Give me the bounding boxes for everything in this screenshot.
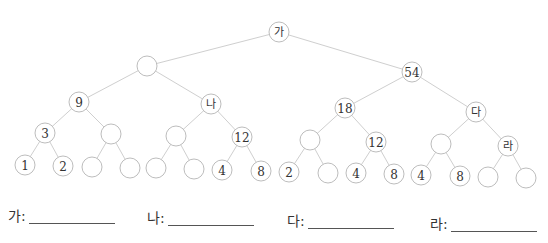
node-label: 12 <box>368 136 383 150</box>
node-label: 나 <box>206 98 216 111</box>
tree-node: 8 <box>450 166 470 186</box>
answer-da: 다: <box>287 213 394 229</box>
tree-node: 12 <box>366 132 386 152</box>
node-circle <box>120 158 140 178</box>
tree-node: 1 <box>15 155 35 175</box>
node-label: 12 <box>234 131 249 145</box>
node-circle <box>184 159 204 179</box>
node-label: 8 <box>390 168 398 182</box>
tree-node-empty <box>431 134 451 154</box>
tree-node: 8 <box>251 161 271 181</box>
answer-label-ra: 라: <box>430 216 448 232</box>
node-label: 4 <box>218 164 226 178</box>
tree-edge <box>279 32 412 72</box>
answer-blank-ga[interactable] <box>29 211 115 224</box>
tree-node: 4 <box>411 165 431 185</box>
node-label: 1 <box>21 159 29 173</box>
tree-node-empty <box>146 158 166 178</box>
answer-ra: 라: <box>430 216 537 232</box>
tree-node-empty <box>318 163 338 183</box>
node-label: 4 <box>352 167 360 181</box>
node-circle <box>300 130 320 150</box>
tree-node: 18 <box>335 98 355 118</box>
node-circle <box>166 126 186 146</box>
tree-node-empty <box>478 167 498 187</box>
tree-edge <box>79 66 147 102</box>
tree-node-empty <box>137 56 157 76</box>
node-circle <box>318 163 338 183</box>
tree-node: 4 <box>346 163 366 183</box>
answer-label-na: 나: <box>147 210 165 226</box>
tree-node: 가 <box>269 22 289 42</box>
answer-label-da: 다: <box>287 213 305 229</box>
tree-node: 2 <box>279 162 299 182</box>
node-circle <box>516 168 536 188</box>
tree-edge <box>147 66 211 104</box>
node-label: 54 <box>404 66 420 80</box>
answer-blank-da[interactable] <box>308 216 394 229</box>
tree-node: 12 <box>232 127 252 147</box>
tree-node: 2 <box>53 156 73 176</box>
tree-node: 다 <box>466 102 486 122</box>
node-label: 18 <box>337 102 352 116</box>
node-label: 8 <box>456 170 464 184</box>
tree-node-empty <box>184 159 204 179</box>
node-label: 4 <box>417 169 425 183</box>
node-circle <box>101 124 121 144</box>
node-label: 다 <box>471 106 481 119</box>
node-label: 2 <box>59 160 67 174</box>
node-circle <box>431 134 451 154</box>
tree-node-empty <box>120 158 140 178</box>
answer-ga: 가: <box>8 208 115 224</box>
tree-node: 8 <box>384 164 404 184</box>
tree-edge <box>147 32 279 66</box>
tree-node: 3 <box>35 123 55 143</box>
binary-tree-diagram: 가549나18다31212라124824848 <box>0 0 548 200</box>
node-label: 가 <box>274 26 284 39</box>
answer-na: 나: <box>147 210 254 226</box>
node-circle <box>82 157 102 177</box>
node-label: 9 <box>75 96 83 110</box>
node-label: 3 <box>41 127 49 141</box>
tree-edge <box>412 72 476 112</box>
tree-node: 나 <box>201 94 221 114</box>
answer-label-ga: 가: <box>8 208 26 224</box>
tree-node-empty <box>101 124 121 144</box>
node-label: 라 <box>503 140 513 153</box>
tree-edge <box>345 72 412 108</box>
tree-edges <box>25 32 526 178</box>
tree-node-empty <box>166 126 186 146</box>
tree-nodes: 가549나18다31212라124824848 <box>15 22 536 188</box>
tree-node-empty <box>516 168 536 188</box>
tree-node: 54 <box>402 62 422 82</box>
node-circle <box>137 56 157 76</box>
tree-node-empty <box>82 157 102 177</box>
node-label: 8 <box>257 165 265 179</box>
tree-node-empty <box>300 130 320 150</box>
answer-blank-na[interactable] <box>168 213 254 226</box>
tree-node: 라 <box>498 136 518 156</box>
node-label: 2 <box>285 166 293 180</box>
node-circle <box>146 158 166 178</box>
tree-node: 9 <box>69 92 89 112</box>
tree-node: 4 <box>212 160 232 180</box>
answer-blank-ra[interactable] <box>451 219 537 232</box>
node-circle <box>478 167 498 187</box>
